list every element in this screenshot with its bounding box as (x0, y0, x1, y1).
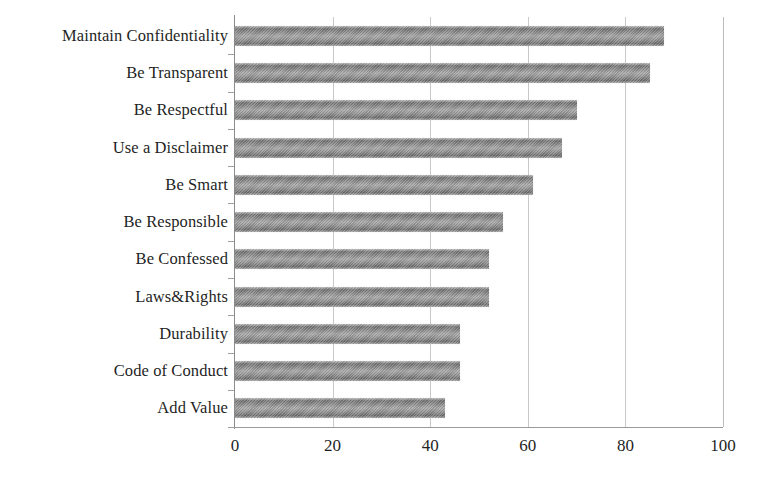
y-axis-tick (228, 166, 234, 167)
x-axis-line (234, 427, 723, 428)
bar (235, 212, 503, 232)
category-label: Be Confessed (0, 249, 228, 269)
bar (235, 100, 577, 120)
y-axis-tick (228, 203, 234, 204)
y-axis-tick (228, 390, 234, 391)
x-axis-tick-label: 40 (422, 435, 439, 457)
y-axis-tick (228, 241, 234, 242)
bar (235, 175, 533, 195)
y-axis-tick (228, 353, 234, 354)
bar (235, 324, 460, 344)
bar (235, 138, 562, 158)
y-axis-tick (228, 315, 234, 316)
y-axis-tick (228, 278, 234, 279)
category-label: Be Smart (0, 175, 228, 195)
x-axis-tick-label: 0 (231, 435, 240, 457)
x-axis-tick-label: 20 (324, 435, 341, 457)
bar-chart: Maintain ConfidentialityBe TransparentBe… (0, 0, 771, 492)
category-label: Durability (0, 324, 228, 344)
category-label: Use a Disclaimer (0, 138, 228, 158)
x-axis-tick-label: 100 (710, 435, 736, 457)
bar (235, 287, 489, 307)
category-axis-labels: Maintain ConfidentialityBe TransparentBe… (0, 17, 228, 427)
y-axis-tick (228, 92, 234, 93)
gridline-100 (723, 17, 724, 427)
category-label: Maintain Confidentiality (0, 26, 228, 46)
y-axis-tick (228, 427, 234, 428)
category-label: Code of Conduct (0, 361, 228, 381)
y-axis-tick (228, 54, 234, 55)
y-axis-tick (228, 129, 234, 130)
bar (235, 26, 664, 46)
category-label: Be Responsible (0, 212, 228, 232)
x-axis-tick-label: 80 (617, 435, 634, 457)
bar (235, 63, 650, 83)
x-axis-tick-labels: 020406080100 (235, 435, 723, 465)
x-axis-tick-label: 60 (519, 435, 536, 457)
category-label: Be Transparent (0, 63, 228, 83)
plot-area (235, 17, 723, 427)
bar (235, 398, 445, 418)
category-label: Be Respectful (0, 100, 228, 120)
category-label: Add Value (0, 398, 228, 418)
bar (235, 361, 460, 381)
bar (235, 249, 489, 269)
category-label: Laws&Rights (0, 287, 228, 307)
